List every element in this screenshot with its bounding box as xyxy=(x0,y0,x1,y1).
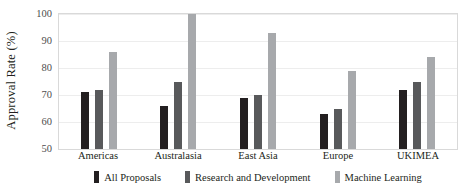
bar[interactable] xyxy=(334,109,342,150)
y-tick-label: 100 xyxy=(36,8,52,19)
x-tick-label: Australasia xyxy=(138,150,218,166)
bar-group-east-asia xyxy=(218,14,298,149)
bar[interactable] xyxy=(348,71,356,149)
bar[interactable] xyxy=(81,92,89,149)
bar[interactable] xyxy=(240,98,248,149)
legend-label: Machine Learning xyxy=(345,172,422,183)
y-tick-label: 60 xyxy=(42,116,53,127)
y-tick-label: 50 xyxy=(42,143,53,154)
x-axis-tick-labels: AmericasAustralasiaEast AsiaEuropeUKIMEA xyxy=(58,150,458,166)
bar-chart-figure: Approval Rate (%) 5060708090100 Americas… xyxy=(0,0,464,192)
bar[interactable] xyxy=(95,90,103,149)
bars-layer xyxy=(59,14,457,149)
bar[interactable] xyxy=(413,82,421,150)
x-tick-label: Europe xyxy=(298,150,378,166)
y-axis-title: Approval Rate (%) xyxy=(0,0,22,160)
bar[interactable] xyxy=(109,52,117,149)
y-tick-label: 90 xyxy=(42,35,53,46)
plot-area xyxy=(58,13,458,150)
bar[interactable] xyxy=(399,90,407,149)
bar[interactable] xyxy=(174,82,182,150)
y-axis-title-text: Approval Rate (%) xyxy=(4,31,19,130)
y-tick-label: 70 xyxy=(42,89,53,100)
y-axis-tick-labels: 5060708090100 xyxy=(22,0,56,160)
bar[interactable] xyxy=(188,14,196,149)
bar[interactable] xyxy=(160,106,168,149)
bar[interactable] xyxy=(320,114,328,149)
bar[interactable] xyxy=(268,33,276,149)
legend-item[interactable]: Machine Learning xyxy=(335,171,422,183)
legend-swatch-icon xyxy=(185,171,190,183)
bar-group-americas xyxy=(59,14,139,149)
bar-group-australasia xyxy=(139,14,219,149)
bar-group-europe xyxy=(298,14,378,149)
y-tick-label: 80 xyxy=(42,62,53,73)
chart-legend: All ProposalsResearch and DevelopmentMac… xyxy=(58,168,458,186)
legend-swatch-icon xyxy=(94,171,99,183)
legend-swatch-icon xyxy=(335,171,340,183)
legend-label: All Proposals xyxy=(104,172,161,183)
legend-label: Research and Development xyxy=(195,172,310,183)
bar-group-ukimea xyxy=(377,14,457,149)
x-tick-label: UKIMEA xyxy=(378,150,458,166)
bar[interactable] xyxy=(427,57,435,149)
legend-item[interactable]: Research and Development xyxy=(185,171,310,183)
legend-item[interactable]: All Proposals xyxy=(94,171,161,183)
x-tick-label: Americas xyxy=(58,150,138,166)
bar[interactable] xyxy=(254,95,262,149)
x-tick-label: East Asia xyxy=(218,150,298,166)
